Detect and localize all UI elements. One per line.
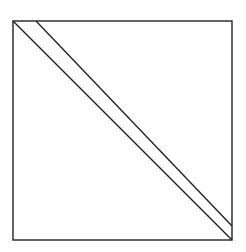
diagram-canvas bbox=[0, 0, 246, 252]
parallel-line bbox=[36, 21, 232, 226]
main-diagonal-line bbox=[13, 21, 232, 240]
